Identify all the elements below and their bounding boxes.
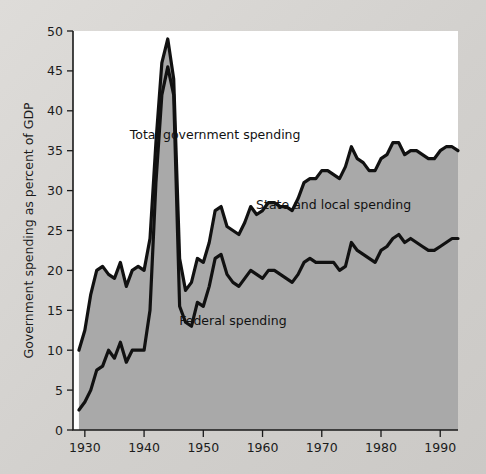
x-axis-tick-label: 1930 bbox=[69, 440, 101, 455]
x-axis-tick-label: 1970 bbox=[306, 440, 338, 455]
y-axis-title: Government spending as percent of GDP bbox=[21, 102, 36, 359]
total-spending-annotation: Total government spending bbox=[129, 127, 301, 142]
y-axis-tick-label: 15 bbox=[47, 303, 63, 318]
y-axis-tick-label: 40 bbox=[47, 103, 63, 118]
y-axis-tick-label: 10 bbox=[47, 343, 63, 358]
x-axis-tick-label: 1960 bbox=[247, 440, 279, 455]
x-axis-tick-label: 1950 bbox=[187, 440, 219, 455]
y-axis-tick-label: 35 bbox=[47, 143, 63, 158]
government-spending-chart: 0510152025303540455019301940195019601970… bbox=[0, 0, 486, 474]
y-axis-tick-label: 5 bbox=[55, 383, 63, 398]
x-axis-tick-label: 1990 bbox=[424, 440, 456, 455]
y-axis-tick-label: 50 bbox=[47, 24, 63, 39]
state-local-spending-annotation: State and local spending bbox=[256, 197, 411, 212]
y-axis-tick-label: 0 bbox=[55, 423, 63, 438]
x-axis-tick-label: 1940 bbox=[128, 440, 160, 455]
figure-panel: 0510152025303540455019301940195019601970… bbox=[0, 0, 486, 474]
y-axis-tick-label: 30 bbox=[47, 183, 63, 198]
federal-spending-annotation: Federal spending bbox=[179, 313, 286, 328]
x-axis-tick-label: 1980 bbox=[365, 440, 397, 455]
y-axis-tick-label: 25 bbox=[47, 223, 63, 238]
y-axis-tick-label: 20 bbox=[47, 263, 63, 278]
y-axis-tick-label: 45 bbox=[47, 63, 63, 78]
